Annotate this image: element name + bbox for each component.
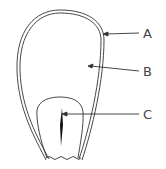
label-a: A [143, 26, 152, 41]
seed-diagram: A B C [0, 0, 166, 169]
arrowhead-c-icon [62, 112, 67, 116]
arrowhead-b-icon [88, 64, 93, 68]
leader-line-a [106, 33, 139, 34]
outer-coat [17, 10, 104, 160]
embryo [37, 97, 83, 160]
label-c: C [143, 107, 152, 122]
label-b: B [143, 64, 152, 79]
leader-line-b [91, 66, 139, 71]
